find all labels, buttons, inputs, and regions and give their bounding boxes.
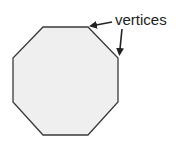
arrow-to-top-vertex [91, 22, 112, 26]
arrow-to-right-vertex [120, 29, 123, 54]
vertices-label: vertices [115, 11, 167, 29]
octagon-shape [13, 27, 118, 135]
